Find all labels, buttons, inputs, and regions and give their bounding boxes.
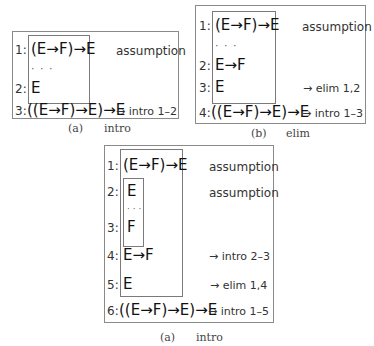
justification: → elim 1,4 <box>210 280 267 291</box>
line-number: 1: <box>199 20 211 32</box>
line-number: 3: <box>15 105 27 117</box>
line-number: 3: <box>107 222 119 234</box>
line-number: 4: <box>199 107 211 119</box>
line-number: 3: <box>199 82 211 94</box>
formula: E→F <box>123 248 154 263</box>
justification: assumption <box>116 45 186 57</box>
justification: → intro 1–5 <box>208 306 269 317</box>
justification: assumption <box>209 187 279 199</box>
formula: (E→F)→E <box>31 42 95 57</box>
line-number: 5: <box>107 279 119 291</box>
line-number: 6: <box>107 305 119 317</box>
formula: E→F <box>215 58 246 73</box>
formula: E <box>123 277 132 292</box>
caption-title: elim <box>286 128 310 139</box>
formula: (E→F)→E <box>215 18 279 33</box>
formula: ((E→F)→E)→E <box>119 303 217 318</box>
formula: E <box>31 81 40 96</box>
justification: assumption <box>209 161 279 173</box>
formula: ((E→F)→E)→E <box>27 103 125 118</box>
ellipsis: · · · <box>215 40 237 51</box>
justification: → elim 1,2 <box>303 83 360 94</box>
ellipsis: · · · <box>31 63 53 74</box>
line-number: 2: <box>199 60 211 72</box>
line-number: 1: <box>15 44 27 56</box>
line-number: 2: <box>107 186 119 198</box>
line-number: 1: <box>107 160 119 172</box>
formula: ((E→F)→E)→E <box>211 105 309 120</box>
justification: → intro 1–2 <box>116 106 177 117</box>
formula: E <box>215 80 224 95</box>
line-number: 2: <box>15 83 27 95</box>
caption-label: (a) <box>160 332 175 343</box>
caption-label: (a) <box>68 123 83 134</box>
justification: assumption <box>302 21 372 33</box>
formula: (E→F)→E <box>123 158 187 173</box>
caption-title: intro <box>104 123 131 134</box>
justification: → intro 2–3 <box>209 251 270 262</box>
line-number: 4: <box>107 250 119 262</box>
caption-title: intro <box>196 332 223 343</box>
caption-label: (b) <box>251 128 267 139</box>
ellipsis: · · · <box>127 205 141 214</box>
justification: → intro 1–3 <box>302 108 363 119</box>
formula: E <box>127 184 136 199</box>
formula: F <box>127 220 136 235</box>
